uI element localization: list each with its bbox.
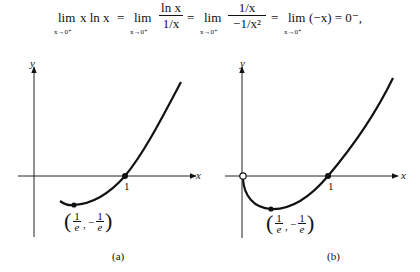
x-axis-label-a: x [196, 169, 201, 181]
figures-canvas [0, 0, 420, 272]
tick-label-a: 1 [124, 180, 130, 192]
min-point-a [71, 202, 76, 207]
y-axis-label-b: y [240, 57, 245, 69]
root-point-b [325, 173, 331, 179]
curve-a [60, 82, 181, 205]
open-point-origin-b [240, 173, 246, 179]
x-axis-label-b: x [401, 169, 406, 181]
caption-b: (b) [327, 250, 340, 262]
root-point-a [122, 173, 128, 179]
tick-label-b: 1 [328, 180, 334, 192]
y-axis-label-a: y [30, 57, 35, 69]
curve-b [243, 78, 393, 209]
caption-a: (a) [112, 250, 124, 262]
